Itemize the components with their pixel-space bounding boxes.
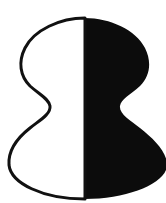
bistable-figure-ground-silhouette <box>0 0 166 203</box>
figure-panel: c) <box>0 0 166 203</box>
